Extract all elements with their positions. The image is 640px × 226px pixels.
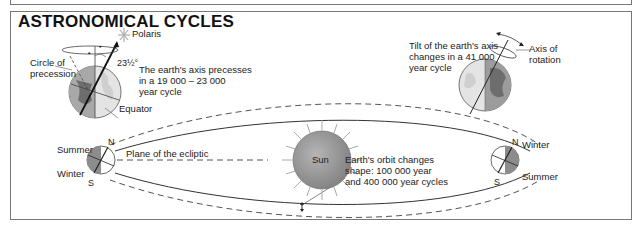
tilt-angle-label: 23½° [117,58,138,69]
left-winter-label: Winter [57,168,84,179]
precession-description-3: year cycle [139,86,182,97]
polaris-star-icon [118,28,130,42]
precession-description-2: in a 19 000 – 23 000 [139,75,226,86]
axis-of-rotation-label-2: rotation [529,54,561,65]
left-north-label: N [108,137,115,148]
right-south-label: S [494,177,500,188]
obliquity-description-3: year cycle [409,62,452,73]
circle-of-precession-label-1: Circle of [30,57,65,68]
equator-label: Equator [119,103,152,114]
right-summer-label: Summer [522,171,558,182]
obliquity-description-1: Tilt of the earth's axis [409,40,498,51]
axis-of-rotation-label-1: Axis of [529,43,558,54]
left-summer-label: Summer [57,144,93,155]
precession-description-1: The earth's axis precesses [139,64,252,75]
obliquity-description-2: changes in a 41 000 [409,51,495,62]
plane-of-ecliptic-label: Plane of the ecliptic [126,148,208,159]
eccentricity-description-1: Earth's orbit changes [345,154,434,165]
astronomical-cycles-diagram [0,0,640,226]
right-winter-label: Winter [522,139,549,150]
left-south-label: S [88,178,94,189]
sun-label: Sun [312,154,329,165]
right-orbit-earth-icon [491,146,519,174]
circle-of-precession-label-2: precession [30,68,76,79]
polaris-label: Polaris [132,28,161,39]
eccentricity-description-2: shape: 100 000 year [345,165,432,176]
precession-earth-icon [55,41,121,118]
eccentricity-description-3: and 400 000 year cycles [345,176,448,187]
right-north-label: N [512,137,519,148]
